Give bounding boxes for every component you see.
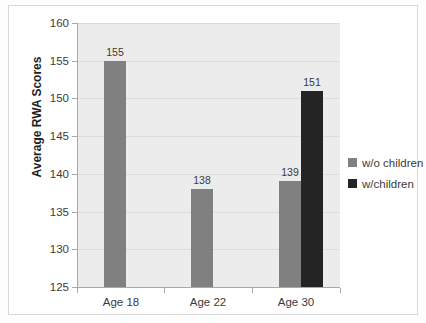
y-tick-mark-135: [72, 212, 78, 213]
y-tick-mark-140: [72, 174, 78, 175]
plot-area: 155 138 139 151: [78, 23, 340, 287]
bar-label-age22-wo-children: 138: [180, 174, 224, 186]
y-tick-label-130: 130: [29, 243, 69, 255]
bar-age30-w-children[interactable]: [301, 91, 323, 287]
legend-label-wo-children: w/o children: [362, 157, 423, 169]
legend-label-w-children: w/children: [362, 178, 414, 190]
bar-age18-wo-children[interactable]: [104, 61, 126, 287]
legend-item-w-children[interactable]: w/children: [348, 175, 423, 192]
bar-label-age30-wo-children: 139: [268, 166, 312, 178]
y-axis-line: [77, 23, 78, 288]
bar-age22-wo-children[interactable]: [191, 189, 213, 287]
y-tick-mark-150: [72, 98, 78, 99]
x-tick-mark-3: [340, 288, 341, 293]
x-axis-line: [77, 287, 340, 288]
y-axis-title: Average RWA Scores: [30, 27, 44, 207]
y-tick-label-125: 125: [29, 281, 69, 293]
y-tick-mark-160: [72, 23, 78, 24]
bar-age30-wo-children[interactable]: [279, 181, 301, 287]
y-tick-label-135: 135: [29, 206, 69, 218]
chart-frame: 155 138 139 151 160 155 150 145 140: [8, 5, 418, 315]
x-tick-mark-2: [252, 288, 253, 293]
x-tick-label-age-18: Age 18: [76, 296, 166, 308]
legend-swatch-icon-wo-children: [348, 158, 357, 167]
bar-label-age30-w-children: 151: [290, 76, 334, 88]
x-tick-mark-0: [77, 288, 78, 293]
legend-swatch-icon-w-children: [348, 179, 357, 188]
x-tick-label-age-30: Age 30: [251, 296, 341, 308]
y-tick-mark-155: [72, 61, 78, 62]
legend-item-wo-children[interactable]: w/o children: [348, 154, 423, 171]
x-tick-label-age-22: Age 22: [163, 296, 253, 308]
chart-screenshot: 155 138 139 151 160 155 150 145 140: [0, 0, 426, 323]
gridline-160: [78, 23, 340, 24]
chart-legend: w/o children w/children: [348, 154, 423, 196]
y-tick-mark-145: [72, 136, 78, 137]
bar-label-age18-wo-children: 155: [93, 46, 137, 58]
x-tick-mark-1: [164, 288, 165, 293]
y-tick-mark-130: [72, 249, 78, 250]
